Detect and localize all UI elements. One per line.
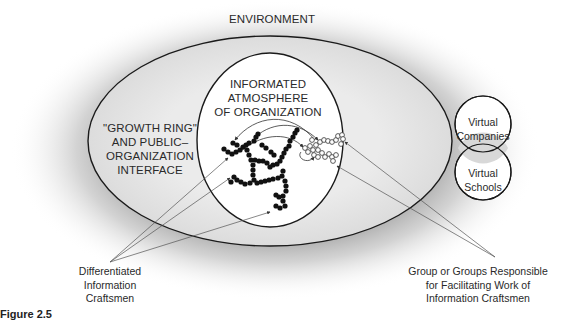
informated-atmosphere-label: INFORMATED ATMOSPHERE OF ORGANIZATION: [213, 77, 323, 119]
growth-ring-label: "GROWTH RING" AND PUBLIC– ORGANIZATION I…: [100, 121, 200, 177]
differentiated-craftsmen-label: Differentiated Information Craftsmen: [60, 265, 160, 306]
facilitating-groups-label: Group or Groups Responsible for Facilita…: [388, 265, 568, 306]
virtual-schools-label: Virtual Schools: [455, 167, 511, 194]
figure-caption: Figure 2.5: [0, 308, 52, 320]
environment-label: ENVIRONMENT: [222, 12, 322, 26]
virtual-companies-label: Virtual Companies: [455, 116, 511, 143]
